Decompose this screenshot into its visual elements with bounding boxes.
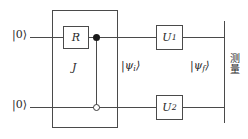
filled-control-dot-icon <box>93 34 100 41</box>
gate-u1-label: U <box>162 31 171 44</box>
open-control-circle-icon <box>93 104 100 111</box>
j-block-label: J <box>72 62 76 73</box>
quantum-circuit-diagram: |0⟩ |0⟩ J R U1 U2 |ψi⟩ |ψf⟩ 测量 <box>0 0 248 139</box>
state-label-psi-f: |ψf⟩ <box>190 60 210 73</box>
gate-r[interactable]: R <box>63 26 89 49</box>
psi-f-ket-close: ⟩ <box>205 59 209 72</box>
qubit-0-init-label: |0⟩ <box>12 29 27 40</box>
gate-u1[interactable]: U1 <box>156 25 183 50</box>
measurement-barrier-line <box>224 21 225 123</box>
gate-u1-subscript: 1 <box>172 33 177 42</box>
gate-r-label: R <box>72 31 80 44</box>
state-label-psi-i: |ψi⟩ <box>121 60 140 73</box>
psi-i-ket-open: |ψ <box>121 59 133 72</box>
control-connector-line <box>96 37 97 107</box>
measurement-label: 测量 <box>228 53 238 75</box>
gate-u2-subscript: 2 <box>172 103 177 112</box>
psi-i-ket-close: ⟩ <box>136 59 140 72</box>
qubit-1-init-label: |0⟩ <box>12 99 27 110</box>
gate-u2-label: U <box>162 101 171 114</box>
gate-u2[interactable]: U2 <box>156 95 183 120</box>
psi-f-ket-open: |ψ <box>190 59 202 72</box>
